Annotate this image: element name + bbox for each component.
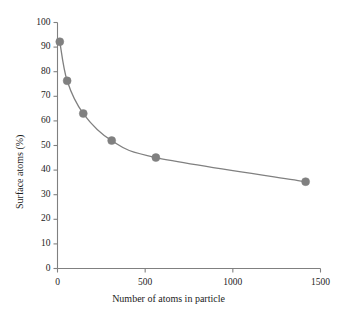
- data-point-0: [56, 38, 64, 46]
- y-tick-label: 100: [36, 18, 50, 28]
- y-tick-label: 40: [41, 165, 51, 175]
- data-point-3: [108, 137, 116, 145]
- x-axis-title: Number of atoms in particle: [0, 293, 337, 304]
- data-series: [56, 38, 310, 186]
- y-tick-label: 10: [41, 239, 51, 249]
- x-tick-label: 1000: [223, 278, 242, 288]
- y-tick-label: 30: [41, 190, 51, 200]
- y-tick-label: 0: [46, 264, 51, 274]
- x-tick-label: 500: [138, 278, 152, 288]
- data-point-2: [79, 110, 87, 118]
- x-tick-label: 0: [55, 278, 60, 288]
- data-point-4: [152, 154, 160, 162]
- data-point-1: [63, 77, 71, 85]
- x-tick-label: 1500: [311, 278, 330, 288]
- y-tick-label: 60: [41, 116, 51, 126]
- series-line-0: [60, 42, 306, 182]
- data-point-5: [302, 178, 310, 186]
- y-tick-label: 70: [41, 92, 51, 102]
- axes: [54, 23, 321, 273]
- y-tick-label: 90: [41, 42, 51, 52]
- y-tick-label: 20: [41, 215, 51, 225]
- y-axis-title: Surface atoms (%): [14, 135, 25, 209]
- y-tick-label: 50: [41, 141, 51, 151]
- y-tick-label: 80: [41, 67, 51, 77]
- chart-container: 0102030405060708090100 050010001500 Numb…: [0, 0, 337, 317]
